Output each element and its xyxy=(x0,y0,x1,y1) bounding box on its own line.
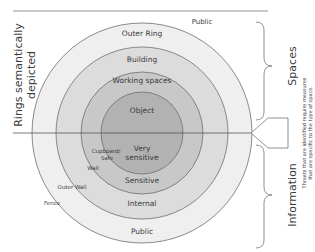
label-internal: Internal xyxy=(128,199,157,208)
label-safe: Safe xyxy=(101,155,114,161)
label-outer-wall: Outer Wall xyxy=(58,184,87,190)
label-cupboard: Cupboard/ xyxy=(92,148,121,155)
label-sensitive: Sensitive xyxy=(125,176,160,185)
label-public-outside: Public xyxy=(192,18,213,26)
left-label-line2: depicted xyxy=(25,51,38,99)
label-public-inner: Public xyxy=(131,227,153,236)
spaces-label: Spaces xyxy=(286,46,299,86)
label-very-sensitive-2: sensitive xyxy=(125,153,159,162)
callout-text: Threats that are identified require meas… xyxy=(301,77,314,189)
security-rings-diagram: Rings semantically depicted Public Outer… xyxy=(0,0,315,252)
callout-line2: that are specific to the type of space. xyxy=(307,86,314,180)
label-wall: Wall xyxy=(87,165,99,171)
label-very-sensitive-1: Very xyxy=(134,144,151,153)
label-fence: Fence xyxy=(44,200,61,206)
label-outer-ring: Outer Ring xyxy=(122,29,163,38)
spaces-brace-icon xyxy=(256,22,272,120)
left-label-line1: Rings semantically xyxy=(12,23,25,127)
callout-shape xyxy=(251,118,288,148)
information-label: Information xyxy=(286,163,299,227)
label-object: Object xyxy=(130,106,154,115)
label-building: Building xyxy=(127,55,158,64)
label-working-spaces: Working spaces xyxy=(113,76,172,85)
information-brace-icon xyxy=(256,145,272,248)
